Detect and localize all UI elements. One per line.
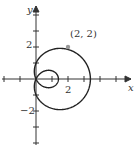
- point-annotation: (2, 2): [70, 29, 97, 39]
- y-tick-label-neg2: −2: [20, 106, 35, 116]
- point-marker: [66, 45, 70, 49]
- y-axis-label: y: [27, 5, 33, 15]
- x-axis-label: x: [128, 83, 134, 93]
- y-tick-label-2: 2: [26, 40, 32, 50]
- x-tick-label-2: 2: [65, 85, 71, 95]
- polar-plot: [0, 0, 137, 147]
